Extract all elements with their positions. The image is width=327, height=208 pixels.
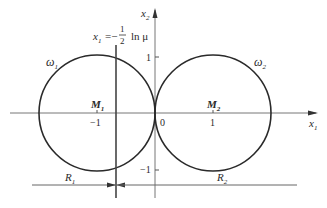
r2-label: R2 (216, 171, 228, 186)
x2-axis-arrow (153, 8, 158, 18)
omega-2-label: ω2 (254, 55, 266, 71)
equation-rhs: ln μ (131, 30, 148, 42)
x1-axis-arrow (308, 111, 318, 116)
tick-label-y-pos1: 1 (146, 52, 151, 63)
equation-lhs: x1 (92, 30, 101, 45)
fraction-numerator: 1 (120, 24, 125, 34)
vertical-line-equation: x1 =− 1 2 ln μ (92, 24, 148, 46)
tick-label-x-pos1: 1 (210, 117, 215, 128)
origin-label: 0 (160, 117, 165, 128)
x1-axis-label: x1 (308, 117, 317, 132)
r1-arrow-icon (107, 183, 116, 188)
diagram-canvas: x2 x1 1 −1 −1 1 0 ω1 ω2 M1 M2 x1 =− 1 2 … (0, 0, 327, 208)
omega-1-label: ω1 (46, 55, 58, 71)
tick-label-x-neg1: −1 (90, 117, 101, 128)
fraction-denominator: 2 (120, 36, 125, 46)
equation-equals: =− (105, 30, 117, 42)
r1-label: R1 (64, 171, 75, 186)
x2-axis-label: x2 (140, 7, 150, 22)
tick-label-y-neg1: −1 (140, 164, 151, 175)
